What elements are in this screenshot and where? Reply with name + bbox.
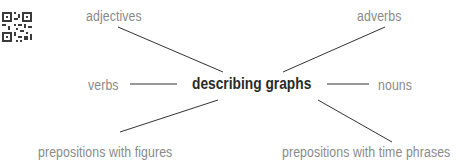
line-adverbs xyxy=(283,27,385,72)
branch-verbs: verbs xyxy=(88,77,119,93)
branch-prepositions-with-time-phrases: prepositions with time phrases xyxy=(282,144,450,160)
line-adjectives xyxy=(118,27,223,72)
line-prepositions-figures xyxy=(120,100,218,132)
branch-nouns: nouns xyxy=(378,77,412,93)
branch-prepositions-with-figures: prepositions with figures xyxy=(38,144,172,160)
branch-adjectives: adjectives xyxy=(86,8,142,24)
line-prepositions-time xyxy=(318,100,392,142)
center-topic: describing graphs xyxy=(192,75,311,93)
branch-adverbs: adverbs xyxy=(357,8,401,24)
